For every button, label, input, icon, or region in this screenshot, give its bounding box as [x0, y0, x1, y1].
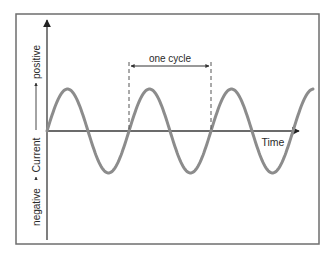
one-cycle-label: one cycle — [149, 53, 192, 64]
x-axis-label-time: Time — [262, 136, 285, 148]
positive-label: positive — [31, 45, 42, 79]
diagram-frame — [16, 14, 319, 244]
ac-current-diagram: one cycle Time positive Current negative — [0, 0, 335, 253]
y-axis-label-current: Current — [30, 137, 42, 172]
negative-label: negative — [31, 188, 42, 226]
